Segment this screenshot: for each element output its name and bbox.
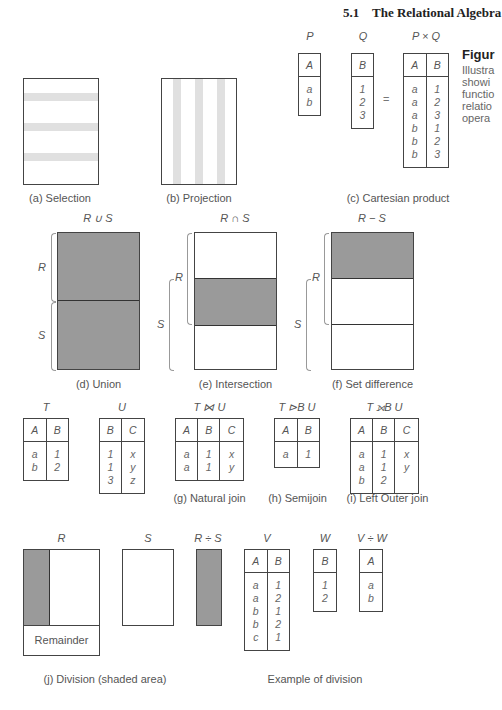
divider <box>58 300 139 301</box>
relation-name-T: T <box>23 401 69 413</box>
cell: x <box>121 442 144 462</box>
column-header: B <box>314 550 337 573</box>
cell: a <box>299 77 321 97</box>
cell: 3 <box>426 109 449 122</box>
relation-table-V: AB a1 a2 b1 b2 c1 <box>244 549 290 651</box>
intersection-title: R ∩ S <box>194 212 276 224</box>
cell: 3 <box>352 109 374 129</box>
cell: a <box>176 442 198 462</box>
cell: 1 <box>100 461 122 474</box>
relation-table-semijoin: AB a1 <box>274 418 320 468</box>
cell: a <box>245 592 268 605</box>
division-RS-title: R ÷ S <box>193 532 223 544</box>
caption-union: (d) Union <box>57 378 140 390</box>
cell: a <box>275 442 298 468</box>
selected-row-bar <box>24 123 98 131</box>
column-header: A <box>176 419 198 442</box>
cell: 1 <box>297 442 320 468</box>
relation-table-left-outer-join: ABC a1x a1y b2 <box>350 418 419 494</box>
column-header: A <box>360 550 383 573</box>
cell: b <box>404 135 427 148</box>
cell: y <box>395 461 419 474</box>
divider <box>332 324 413 325</box>
division-RS-diagram <box>196 549 222 626</box>
intersection-shaded-area <box>195 278 276 326</box>
column-header: A <box>299 54 321 77</box>
cell: y <box>121 461 144 474</box>
column-header: A <box>245 550 268 573</box>
figure-caption-title: Figur <box>462 47 502 62</box>
column-header: C <box>220 419 244 442</box>
cell: c <box>245 631 268 651</box>
column-header: C <box>121 419 144 442</box>
difference-shaded-area <box>332 233 413 279</box>
division-shaded-area <box>24 550 50 625</box>
column-header: A <box>404 54 427 77</box>
union-title: R ∪ S <box>57 212 139 225</box>
brace-R <box>51 233 56 302</box>
cell: 1 <box>352 77 374 97</box>
relation-table-P: A a b <box>298 53 321 116</box>
cell: x <box>395 442 419 462</box>
selected-row-bar <box>24 153 98 161</box>
cell: b <box>245 618 268 631</box>
caption-semijoin: (h) Semijoin <box>265 492 330 504</box>
figure-caption-line: relatio <box>462 100 502 112</box>
cell: a <box>24 442 47 462</box>
relation-name-P: P <box>298 30 322 42</box>
cell: 3 <box>426 148 449 168</box>
division-S-diagram <box>122 549 174 626</box>
label-R: R <box>38 261 46 273</box>
relation-table-T: AB a1 b2 <box>23 418 69 481</box>
difference-title: R − S <box>331 212 413 224</box>
cell: 2 <box>314 592 337 612</box>
page-header: 5.1 The Relational Algebra <box>343 5 501 21</box>
cell: y <box>220 461 244 481</box>
brace-R <box>187 233 192 325</box>
cell: 1 <box>100 442 122 462</box>
cell: b <box>351 474 373 494</box>
selected-row-bar <box>24 93 98 101</box>
cell: a <box>351 461 373 474</box>
projected-column-bar <box>217 79 225 184</box>
cell: b <box>404 122 427 135</box>
relation-name-V-div-W: V ÷ W <box>352 532 392 544</box>
division-S-title: S <box>122 532 174 544</box>
column-header: B <box>373 419 395 442</box>
column-header: A <box>275 419 298 442</box>
cell: a <box>404 109 427 122</box>
selection-diagram <box>23 78 99 185</box>
relation-table-PxQ: AB a1 a2 a3 b1 b2 b3 <box>403 53 449 168</box>
relation-name-U: U <box>99 401 145 413</box>
relation-name-V: V <box>244 532 290 544</box>
relation-name-semijoin: T ⊳B U <box>274 401 320 414</box>
relation-name-Q: Q <box>351 30 375 42</box>
column-header: B <box>426 54 449 77</box>
caption-division: (j) Division (shaded area) <box>40 673 170 685</box>
cell: a <box>176 461 198 481</box>
cell: 2 <box>46 461 69 481</box>
column-header: B <box>297 419 320 442</box>
column-header: B <box>46 419 69 442</box>
cell: 2 <box>373 474 395 494</box>
relation-name-W: W <box>313 532 337 544</box>
column-header: B <box>267 550 290 573</box>
cell: a <box>404 96 427 109</box>
cell: a <box>360 573 383 593</box>
cell: 1 <box>426 122 449 135</box>
figure-caption-line: showi <box>462 76 502 88</box>
cell: 1 <box>373 442 395 462</box>
caption-selection: (a) Selection <box>20 192 100 204</box>
label-R: R <box>312 271 320 283</box>
column-header: A <box>24 419 47 442</box>
cell: b <box>245 605 268 618</box>
projection-diagram <box>161 78 237 185</box>
cell: b <box>360 592 383 612</box>
cell: a <box>245 573 268 593</box>
brace-R <box>324 233 329 325</box>
column-header: A <box>351 419 373 442</box>
column-header: B <box>100 419 122 442</box>
label-S: S <box>294 318 301 330</box>
cell: 1 <box>267 605 290 618</box>
cell: b <box>404 148 427 168</box>
